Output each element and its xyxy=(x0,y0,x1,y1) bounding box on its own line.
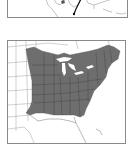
range-map: Range map of eastern North America xyxy=(7,40,126,144)
species-range-area xyxy=(26,45,120,117)
top-map-graphic xyxy=(8,0,127,17)
range-map-graphic xyxy=(8,41,125,143)
route-line-icon xyxy=(74,0,81,14)
top-map-fragment: Partial map of southern United States wi… xyxy=(7,0,128,18)
location-marker-icon xyxy=(73,13,75,15)
